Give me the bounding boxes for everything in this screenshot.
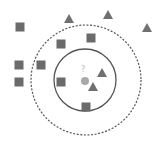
query-label: ? (81, 65, 85, 74)
triangle-point (97, 68, 107, 77)
triangle-point (64, 14, 74, 23)
square-point (57, 40, 66, 49)
square-point (15, 78, 24, 87)
knn-diagram: ? (0, 0, 161, 148)
square-point (15, 61, 24, 70)
square-point (16, 23, 25, 32)
square-point (57, 78, 66, 87)
query-point (81, 77, 89, 85)
triangle-point (103, 10, 113, 19)
square-point (82, 103, 91, 112)
triangle-point (142, 23, 152, 32)
triangle-point (88, 82, 98, 91)
square-point (87, 34, 96, 43)
square-point (37, 61, 46, 70)
